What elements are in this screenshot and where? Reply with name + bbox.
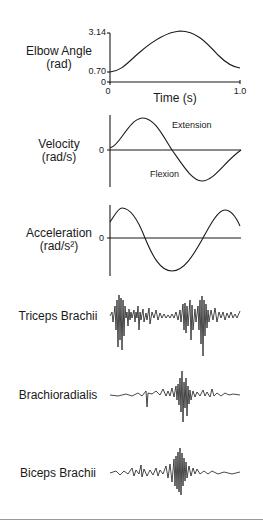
triceps-emg-trace bbox=[110, 295, 240, 356]
biceps-emg-trace bbox=[110, 448, 240, 495]
brachioradialis-emg-trace bbox=[110, 371, 240, 422]
plots-canvas bbox=[0, 0, 263, 525]
elbow-angle-axes bbox=[107, 33, 240, 85]
bottom-divider bbox=[0, 519, 263, 520]
acceleration-curve bbox=[110, 208, 240, 271]
elbow-angle-curve bbox=[110, 31, 240, 72]
